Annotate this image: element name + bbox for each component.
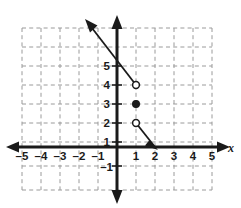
- open-point-1-2: [133, 120, 140, 127]
- y-tick-label-2: 2: [104, 117, 110, 129]
- x-tick-label-1: 1: [133, 150, 140, 162]
- y-tick-label-1: 1: [104, 136, 111, 148]
- y-tick-label-3: 3: [104, 98, 110, 110]
- plotted-points: [133, 82, 140, 127]
- x-tick-label-neg5: –5: [16, 150, 29, 162]
- x-tick-label-5: 5: [209, 150, 216, 162]
- x-tick-label-2: 2: [152, 150, 158, 162]
- y-tick-label-4: 4: [104, 79, 111, 91]
- y-tick-label-5: 5: [104, 60, 111, 72]
- open-point-1-4: [133, 82, 140, 89]
- closed-point-1-3: [133, 101, 140, 108]
- y-tick-label-neg1: –1: [100, 161, 113, 173]
- x-tick-label-neg3: –3: [54, 150, 67, 162]
- coordinate-plane: –5 –4 –3 –2 –1 1 2 3 4 5 5 4 3 2 1 –1 x: [0, 0, 241, 208]
- x-tick-label-neg4: –4: [35, 150, 48, 162]
- x-axis-label: x: [227, 141, 234, 155]
- x-tick-label-4: 4: [190, 150, 197, 162]
- x-tick-label-3: 3: [171, 150, 177, 162]
- x-tick-label-neg2: –2: [73, 150, 86, 162]
- coordinate-graph-figure: –5 –4 –3 –2 –1 1 2 3 4 5 5 4 3 2 1 –1 x: [0, 0, 241, 208]
